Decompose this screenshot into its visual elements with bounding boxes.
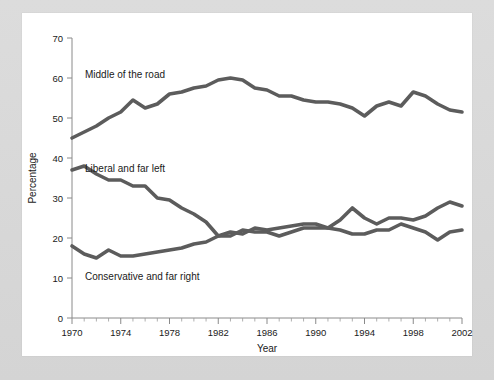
y-axis-title: Percentage: [27, 152, 38, 204]
y-tick-label: 30: [52, 193, 63, 204]
x-tick-label: 1994: [354, 327, 375, 338]
series-label-middle: Middle of the road: [85, 69, 165, 80]
x-tick-label: 1974: [110, 327, 131, 338]
x-tick-label: 2002: [451, 327, 472, 338]
x-tick-label: 1978: [159, 327, 180, 338]
x-tick-label: 1970: [61, 327, 82, 338]
y-tick-label: 40: [52, 153, 63, 164]
x-tick-label: 1998: [403, 327, 424, 338]
x-axis-title: Year: [257, 343, 278, 354]
y-tick-label: 20: [52, 233, 63, 244]
y-tick-label: 10: [52, 273, 63, 284]
series-line: [72, 78, 462, 138]
y-tick-label: 60: [52, 73, 63, 84]
x-tick-label: 1986: [256, 327, 277, 338]
series-label-liberal: Liberal and far left: [85, 163, 165, 174]
y-tick-group: 010203040506070: [52, 33, 72, 324]
x-tick-label: 1982: [208, 327, 229, 338]
x-tick-group: 197019741978198219861990199419982002: [61, 318, 472, 338]
y-tick-label: 50: [52, 113, 63, 124]
chart-figure: 010203040506070 197019741978198219861990…: [0, 0, 494, 380]
y-tick-label: 0: [58, 313, 63, 324]
y-tick-label: 70: [52, 33, 63, 44]
line-chart: 010203040506070 197019741978198219861990…: [0, 0, 494, 380]
series-label-conservative: Conservative and far right: [85, 271, 200, 282]
x-tick-label: 1990: [305, 327, 326, 338]
